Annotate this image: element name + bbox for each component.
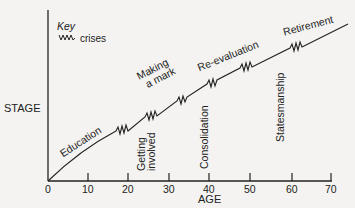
key-title: Key bbox=[57, 21, 75, 32]
x-tick-label: 40 bbox=[203, 184, 215, 195]
x-tick-label: 60 bbox=[286, 184, 298, 195]
x-axis-ticks bbox=[88, 173, 331, 181]
key-crises-label: crises bbox=[80, 34, 106, 44]
x-tick-label: 10 bbox=[82, 184, 94, 195]
x-tick-label: 50 bbox=[244, 184, 256, 195]
y-axis-label: STAGE bbox=[4, 103, 40, 114]
x-tick-label: 20 bbox=[122, 184, 134, 195]
x-tick-label: 70 bbox=[325, 184, 337, 195]
stage-label-getting-involved: Getting involved bbox=[136, 132, 156, 171]
x-axis-label: AGE bbox=[198, 194, 221, 205]
stage-label-statesmanship: Statesmanship bbox=[275, 73, 286, 142]
zigzag-icon bbox=[59, 35, 75, 40]
career-stages-diagram: Key crises STAGE AGE 0 10 20 30 40 50 60… bbox=[0, 0, 355, 208]
x-tick-label: 0 bbox=[45, 184, 51, 195]
stage-label-consolidation: Consolidation bbox=[199, 105, 210, 169]
x-tick-label: 30 bbox=[163, 184, 175, 195]
